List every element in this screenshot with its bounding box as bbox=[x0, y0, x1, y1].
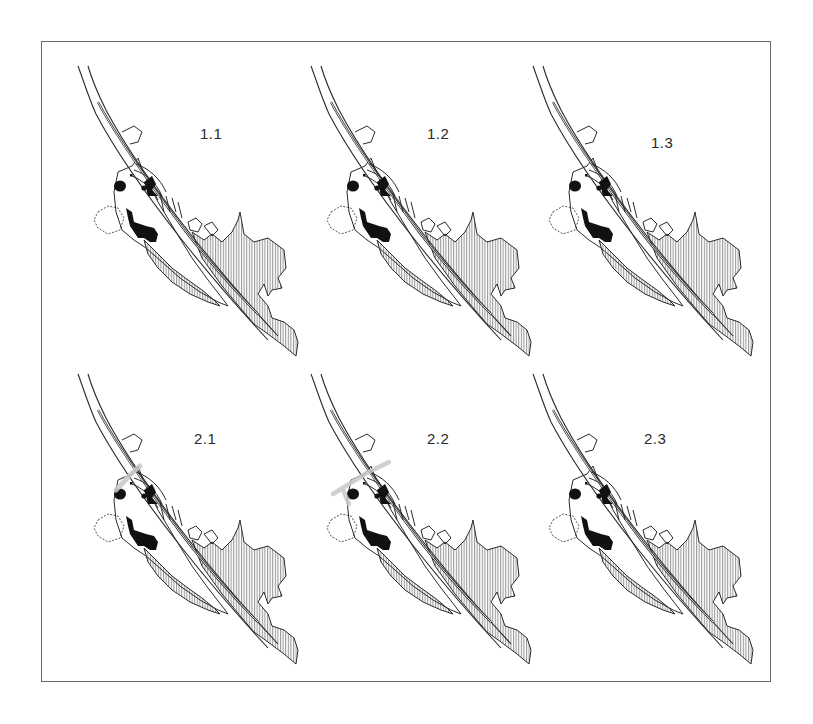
panel-label: 1.3 bbox=[651, 134, 673, 151]
loop-road bbox=[355, 126, 375, 144]
map-panel-2-3: 2.3 bbox=[527, 370, 767, 670]
corridor-map bbox=[527, 62, 767, 362]
building-footprints bbox=[114, 482, 158, 550]
district-outline bbox=[569, 466, 683, 614]
loop-road bbox=[355, 434, 375, 452]
corridor-map bbox=[527, 370, 767, 670]
hatched-zone-east bbox=[192, 520, 298, 664]
building-footprints bbox=[569, 174, 613, 242]
hatched-zone-east bbox=[192, 212, 298, 356]
panel-label: 1.2 bbox=[427, 125, 449, 142]
loop-road bbox=[577, 126, 597, 144]
district-outline bbox=[347, 158, 461, 306]
building-footprints bbox=[114, 174, 158, 242]
map-panel-2-1: 2.1 bbox=[72, 370, 312, 670]
dotted-area bbox=[327, 514, 357, 542]
building-footprints bbox=[347, 482, 391, 550]
corridor-map bbox=[72, 370, 312, 670]
district-outline bbox=[114, 158, 228, 306]
map-panel-2-2: 2.2 bbox=[305, 370, 545, 670]
dotted-area bbox=[94, 514, 124, 542]
loop-road bbox=[577, 434, 597, 452]
building-footprints bbox=[569, 482, 613, 550]
district-outline bbox=[347, 466, 461, 614]
corridor-map bbox=[305, 62, 545, 362]
hatched-zone-east bbox=[425, 520, 531, 664]
loop-road bbox=[122, 126, 142, 144]
corridor-map bbox=[72, 62, 312, 362]
panel-label: 1.1 bbox=[200, 125, 222, 142]
map-panel-1-1: 1.1 bbox=[72, 62, 312, 362]
district-outline bbox=[114, 466, 228, 614]
dotted-area bbox=[549, 514, 579, 542]
loop-road bbox=[122, 434, 142, 452]
map-panel-1-3: 1.3 bbox=[527, 62, 767, 362]
corridor-map bbox=[305, 370, 545, 670]
panel-label: 2.2 bbox=[427, 430, 449, 447]
panel-label: 2.1 bbox=[194, 430, 216, 447]
hatched-zone-east bbox=[647, 520, 753, 664]
dotted-area bbox=[549, 206, 579, 234]
hatched-zone-east bbox=[647, 212, 753, 356]
hatched-zone-east bbox=[425, 212, 531, 356]
panel-label: 2.3 bbox=[644, 430, 666, 447]
map-panel-1-2: 1.2 bbox=[305, 62, 545, 362]
district-outline bbox=[569, 158, 683, 306]
dotted-area bbox=[327, 206, 357, 234]
building-footprints bbox=[347, 174, 391, 242]
dotted-area bbox=[94, 206, 124, 234]
